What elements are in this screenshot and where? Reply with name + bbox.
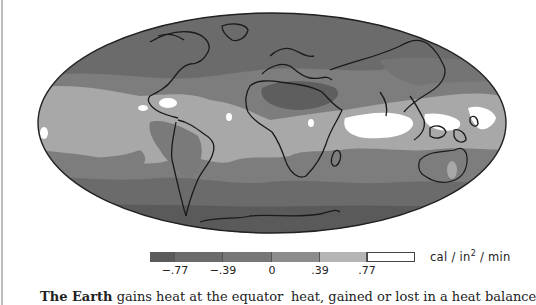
legend-swatch-1 [150, 252, 175, 262]
legend-units: cal / in2 / min [430, 249, 511, 264]
legend-swatch-6 [367, 252, 415, 262]
legend-swatch-3 [223, 252, 272, 262]
legend-tick-label: .39 [311, 264, 329, 277]
legend-tick-label: 0 [269, 264, 276, 277]
caption-left-text: gains heat at the equator [113, 289, 284, 304]
caption-right-column: heat, gained or lost in a heat balance [291, 289, 536, 305]
legend-swatch-2 [175, 252, 223, 262]
legend-tick-label: −.39 [210, 264, 237, 277]
heat-balance-legend [150, 252, 415, 262]
legend-swatch-4 [272, 252, 320, 262]
legend-swatch-5 [320, 252, 367, 262]
world-heat-balance-map [0, 0, 518, 240]
legend-tick-label: .77 [358, 264, 376, 277]
units-suffix: / min [476, 250, 511, 264]
caption-left-column: The Earth gains heat at the equator [40, 289, 283, 305]
caption-lead-bold: The Earth [40, 289, 113, 304]
legend-tick-labels: −.77 −.39 0 .39 .77 [0, 264, 518, 278]
legend-tick-label: −.77 [162, 264, 189, 277]
units-prefix: cal / in [430, 250, 471, 264]
